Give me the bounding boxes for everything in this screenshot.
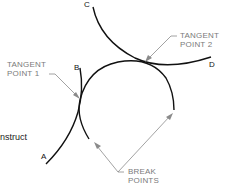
callout-tangent-point-1: TANGENT POINT 1 — [7, 60, 46, 78]
leader-tangent-point-2 — [147, 36, 177, 60]
point-label-a: A — [41, 152, 46, 161]
callout-line: POINT 2 — [180, 40, 219, 49]
construction-drawing — [0, 0, 225, 188]
callout-line: TANGENT — [180, 31, 219, 40]
leader-break-point-2 — [118, 116, 170, 172]
point-label-b: B — [74, 63, 79, 72]
leader-tangent-point-1 — [49, 74, 78, 97]
callout-line: BREAK — [128, 167, 159, 176]
point-label-d: D — [209, 60, 215, 69]
callout-line: POINTS — [128, 176, 159, 185]
callout-break-points: BREAK POINTS — [128, 167, 159, 185]
point-label-c: C — [84, 0, 90, 9]
callout-line: POINT 1 — [7, 69, 46, 78]
callout-tangent-point-2: TANGENT POINT 2 — [180, 31, 219, 49]
leader-break-point-1 — [97, 146, 124, 172]
callout-line: TANGENT — [7, 60, 46, 69]
truncated-side-text: nstruct — [0, 132, 27, 142]
arrowhead-break-point-1 — [94, 142, 101, 149]
